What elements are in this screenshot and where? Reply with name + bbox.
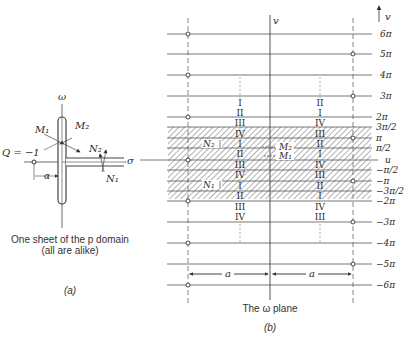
svg-text:III: III bbox=[315, 170, 326, 180]
svg-text:5π: 5π bbox=[380, 49, 393, 59]
svg-text:a: a bbox=[309, 268, 315, 279]
svg-text:I: I bbox=[318, 191, 322, 201]
m2-label: M₂ bbox=[74, 120, 89, 131]
q-point bbox=[32, 160, 36, 164]
n1-label-b: N₁ bbox=[202, 180, 214, 190]
panel-b: v v 6π 5π 4π 3π 2π 3π/2 π π/2 u −π/2 −π … bbox=[140, 6, 404, 305]
svg-text:II: II bbox=[316, 139, 324, 149]
svg-text:I: I bbox=[318, 149, 322, 159]
n2-label-b: N₂ bbox=[202, 139, 215, 149]
svg-text:I: I bbox=[238, 139, 242, 149]
svg-text:−4π: −4π bbox=[376, 238, 396, 248]
panel-a: ω σ Q = −1 α M₁ M₂ N₂ N₁ bbox=[2, 91, 135, 228]
svg-text:u: u bbox=[385, 155, 391, 165]
panel-a-caption-line1: One sheet of the p domain bbox=[10, 234, 130, 245]
svg-text:III: III bbox=[315, 212, 326, 222]
svg-text:III: III bbox=[235, 160, 246, 170]
v-arrow-label: v bbox=[385, 11, 391, 22]
svg-text:II: II bbox=[236, 108, 244, 118]
q-label: Q = −1 bbox=[2, 147, 40, 158]
svg-text:III: III bbox=[235, 202, 246, 212]
n2-label: N₂ bbox=[88, 143, 102, 154]
svg-text:−6π: −6π bbox=[376, 280, 396, 290]
line-labels: 6π 5π 4π 3π 2π 3π/2 π π/2 u −π/2 −π −3π/… bbox=[375, 29, 404, 290]
svg-text:−3π: −3π bbox=[376, 217, 396, 227]
svg-text:−π/2: −π/2 bbox=[376, 165, 398, 175]
panel-a-tag: (a) bbox=[10, 285, 130, 296]
svg-text:6π: 6π bbox=[380, 29, 393, 39]
svg-text:−2π: −2π bbox=[376, 196, 396, 206]
m1-label-b: M₁ bbox=[278, 151, 292, 161]
svg-text:IV: IV bbox=[315, 118, 326, 128]
svg-text:II: II bbox=[236, 149, 244, 159]
m1-label: M₁ bbox=[34, 124, 49, 135]
alpha-label: α bbox=[44, 171, 50, 181]
svg-text:a: a bbox=[225, 268, 231, 279]
panel-b-caption: The ω plane bbox=[210, 303, 330, 314]
n1-label: N₁ bbox=[105, 173, 119, 184]
svg-text:III: III bbox=[235, 118, 246, 128]
svg-text:III: III bbox=[315, 129, 326, 139]
svg-text:4π: 4π bbox=[379, 70, 393, 80]
svg-text:π/2: π/2 bbox=[375, 143, 391, 153]
panel-b-tag: (b) bbox=[210, 322, 330, 333]
svg-text:I: I bbox=[238, 98, 242, 108]
svg-text:π: π bbox=[375, 133, 383, 143]
panel-a-caption-line2: (all are alike) bbox=[10, 245, 130, 256]
svg-text:−π: −π bbox=[376, 176, 391, 186]
svg-text:−5π: −5π bbox=[376, 259, 396, 269]
panel-a-caption: One sheet of the p domain (all are alike… bbox=[10, 234, 130, 256]
svg-text:3π: 3π bbox=[380, 91, 393, 101]
svg-text:IV: IV bbox=[315, 202, 326, 212]
svg-text:−3π/2: −3π/2 bbox=[376, 186, 404, 196]
svg-text:IV: IV bbox=[235, 170, 246, 180]
svg-text:IV: IV bbox=[235, 129, 246, 139]
svg-text:I: I bbox=[318, 108, 322, 118]
v-axis-label: v bbox=[273, 15, 279, 26]
svg-text:II: II bbox=[316, 98, 324, 108]
svg-text:IV: IV bbox=[235, 212, 246, 222]
svg-text:II: II bbox=[316, 181, 324, 191]
svg-text:II: II bbox=[236, 191, 244, 201]
svg-text:2π: 2π bbox=[375, 112, 389, 122]
omega-label: ω bbox=[58, 91, 66, 102]
svg-text:I: I bbox=[238, 181, 242, 191]
svg-text:IV: IV bbox=[315, 160, 326, 170]
svg-text:3π/2: 3π/2 bbox=[376, 122, 397, 132]
sigma-label: σ bbox=[127, 155, 135, 166]
